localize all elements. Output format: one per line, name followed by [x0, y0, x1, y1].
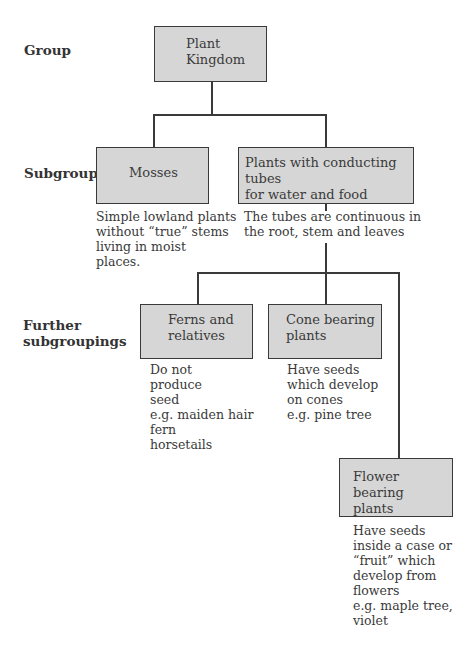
- node-ferns: Ferns and relatives: [140, 304, 253, 359]
- node-cone-description: Have seeds which develop on cones e.g. p…: [287, 362, 378, 422]
- node-cone-bearing: Cone bearing plants: [268, 304, 382, 359]
- connector-conducting-down: [325, 243, 327, 305]
- row-label-subgroup: Subgroup: [24, 165, 98, 181]
- node-conducting-description: The tubes are continuous in the root, st…: [244, 209, 421, 239]
- connector-to-ferns: [197, 272, 199, 305]
- row-label-group: Group: [24, 42, 71, 58]
- node-title: Flower bearing plants: [353, 469, 452, 517]
- connector-to-flower: [398, 272, 400, 459]
- connector-to-mosses: [153, 114, 155, 148]
- node-title: Plant Kingdom: [186, 36, 245, 68]
- row-label-further-subgroupings: Further subgroupings: [23, 317, 127, 349]
- node-plant-kingdom: Plant Kingdom: [154, 26, 267, 82]
- node-mosses-description: Simple lowland plants without “true” ste…: [96, 209, 236, 269]
- node-flower-bearing: Flower bearing plants: [339, 458, 453, 517]
- node-mosses: Mosses: [96, 147, 209, 204]
- connector-further-bar: [197, 272, 399, 274]
- connector-kingdom-down: [211, 81, 213, 115]
- connector-to-conducting: [325, 114, 327, 148]
- connector-subgroup-bar: [153, 114, 327, 116]
- node-title: Cone bearing plants: [286, 312, 375, 344]
- node-title: Plants with conducting tubes for water a…: [245, 155, 413, 203]
- node-conducting-tubes: Plants with conducting tubes for water a…: [238, 147, 414, 204]
- node-title: Ferns and relatives: [168, 312, 234, 344]
- node-title: Mosses: [129, 165, 178, 181]
- node-ferns-description: Do not produce seed e.g. maiden hair fer…: [150, 362, 254, 452]
- node-flower-description: Have seeds inside a case or “fruit” whic…: [353, 523, 453, 628]
